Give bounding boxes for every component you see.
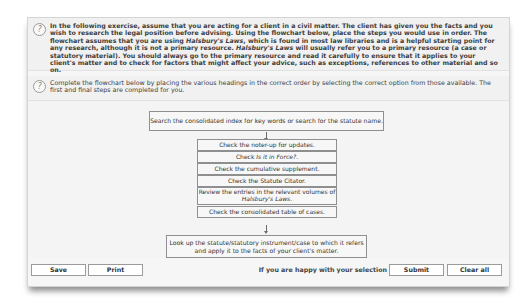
submit-button[interactable]: Submit <box>389 264 444 276</box>
arrow-down-icon <box>266 225 267 232</box>
instructions-text: Complete the flowchart below by placing … <box>50 79 501 94</box>
flowchart-step-4[interactable]: Check the Statute Citator. <box>197 175 337 187</box>
halsburys-laws-title: Halsbury's Laws <box>236 44 293 51</box>
arrow-down-icon <box>266 132 267 139</box>
submit-prompt: If you are happy with your selection <box>259 266 387 273</box>
flowchart-final-step: Look up the statute/statutory instrument… <box>166 235 367 258</box>
flowchart-step-1[interactable]: Check the noter-up for updates. <box>197 139 337 151</box>
instructions-section: ? Complete the flowchart below by placin… <box>28 76 509 101</box>
step-label-italic: Halsbury's Laws <box>242 195 290 202</box>
print-button[interactable]: Print <box>88 264 143 276</box>
stage: ? In the following exercise, assume that… <box>0 0 529 308</box>
flowchart-first-step: Search the consolidated index for key wo… <box>149 111 384 131</box>
help-icon: ? <box>33 80 46 93</box>
step-label: Check the noter-up for updates. <box>219 141 315 148</box>
help-icon: ? <box>33 23 46 36</box>
step-label: . <box>290 195 292 202</box>
step-label: Check the consolidated table of cases. <box>209 208 325 215</box>
flowchart-step-2[interactable]: Check Is it in Force?. <box>197 151 337 163</box>
step-label: Check the cumulative supplement. <box>215 165 320 172</box>
save-button[interactable]: Save <box>31 264 86 276</box>
flowchart-step-3[interactable]: Check the cumulative supplement. <box>197 163 337 175</box>
flowchart: Search the consolidated index for key wo… <box>28 101 509 258</box>
flowchart-step-5[interactable]: Review the entries in the relevant volum… <box>197 187 337 205</box>
exercise-panel: ? In the following exercise, assume that… <box>27 17 510 287</box>
button-bar: Save Print If you are happy with your se… <box>28 262 509 280</box>
intro-text: In the following exercise, assume that y… <box>50 22 503 74</box>
intro-section: ? In the following exercise, assume that… <box>28 18 509 71</box>
halsburys-laws-title: Halsbury's Laws <box>186 37 243 44</box>
step-label: Check the Statute Citator. <box>228 177 306 184</box>
clear-all-button[interactable]: Clear all <box>447 264 502 276</box>
flowchart-step-6[interactable]: Check the consolidated table of cases. <box>197 206 337 218</box>
step-label: . <box>296 153 298 160</box>
step-label: Check <box>236 153 256 160</box>
step-label-italic: Is it in Force? <box>256 153 296 160</box>
